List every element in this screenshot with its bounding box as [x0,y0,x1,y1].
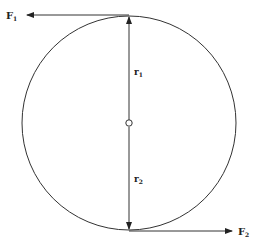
label-f2: F2 [238,226,249,238]
label-r2: r2 [134,174,143,185]
label-f1: F1 [6,10,17,22]
center-point [126,120,132,126]
diagram-canvas: F1 F2 r1 r2 [0,0,259,248]
label-r1: r1 [134,67,143,78]
